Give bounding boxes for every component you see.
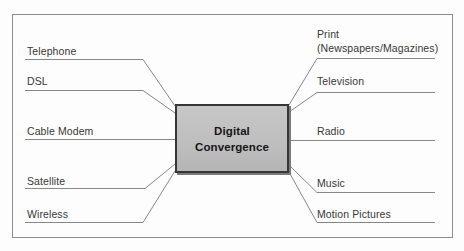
digital-convergence-box: Digital Convergence [175,104,289,173]
label-print: Print (Newspapers/Magazines) [317,27,438,55]
label-telephone: Telephone [27,44,76,58]
connector-dsl [25,91,175,114]
label-print-line1: Print [317,27,438,41]
connector-television [289,93,435,113]
box-title-line1: Digital [214,123,250,139]
label-motion-pictures: Motion Pictures [317,207,391,221]
label-cable-modem: Cable Modem [27,124,93,138]
label-wireless: Wireless [27,207,68,221]
label-satellite: Satellite [27,174,65,188]
connector-music [289,165,435,193]
label-music: Music [317,176,345,190]
label-print-line2: (Newspapers/Magazines) [317,41,438,55]
digital-convergence-diagram: Telephone DSL Cable Modem Satellite Wire… [0,0,464,251]
label-television: Television [317,74,364,88]
label-radio: Radio [317,124,345,138]
box-title-line2: Convergence [195,139,269,155]
label-dsl: DSL [27,74,48,88]
